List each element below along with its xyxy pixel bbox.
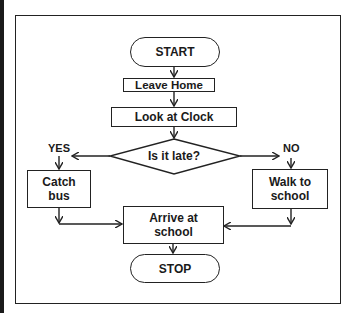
leave-home-label: Leave Home: [135, 78, 203, 92]
walk-to-school-step: Walk to school: [252, 169, 328, 209]
start-label: START: [155, 45, 194, 59]
catch-bus-line2: bus: [48, 189, 69, 203]
arrive-at-school-step: Arrive at school: [123, 206, 224, 244]
catch-bus-step: Catch bus: [27, 170, 91, 208]
decision-label: Is it late?: [140, 149, 208, 163]
no-branch-label: NO: [283, 142, 300, 154]
look-at-clock-label: Look at Clock: [135, 110, 214, 124]
stop-label: STOP: [159, 262, 191, 276]
look-at-clock-step: Look at Clock: [111, 107, 237, 127]
walk-line2: school: [271, 189, 310, 203]
arrive-line2: school: [154, 225, 193, 239]
yes-branch-label: YES: [48, 142, 70, 154]
stop-terminal: STOP: [130, 254, 220, 283]
start-terminal: START: [130, 37, 220, 67]
catch-bus-line1: Catch: [42, 175, 75, 189]
leave-home-step: Leave Home: [123, 78, 215, 92]
walk-line1: Walk to: [269, 175, 311, 189]
arrive-line1: Arrive at: [149, 211, 198, 225]
